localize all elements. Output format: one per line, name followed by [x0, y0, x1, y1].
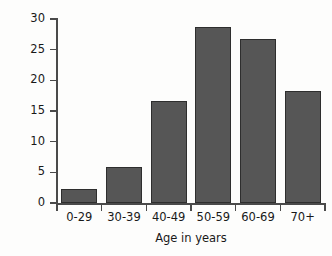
y-axis-tick-mark [50, 18, 57, 19]
y-axis-tick-mark [50, 80, 57, 81]
bar [151, 101, 187, 203]
x-axis-tick-label: 70+ [273, 212, 332, 224]
y-axis-tick-label: 5 [5, 166, 45, 178]
y-axis-tick-label: 0 [5, 197, 45, 209]
y-axis-tick-mark [50, 110, 57, 111]
bar [240, 39, 276, 203]
y-axis-tick-label: 15 [5, 105, 45, 117]
bar-chart: Percent of total 051015202530 0-2930-394… [0, 0, 332, 256]
y-axis-tick-mark [50, 172, 57, 173]
x-axis-tick-mark [235, 204, 236, 211]
x-axis-tick-mark [146, 204, 147, 211]
x-axis-tick-mark [190, 204, 191, 211]
y-axis-tick-label: 30 [5, 13, 45, 25]
y-axis-tick-mark [50, 49, 57, 50]
x-axis-title: Age in years [56, 231, 326, 245]
bar [195, 27, 231, 203]
y-axis-tick-mark [50, 141, 57, 142]
y-axis-tick-label: 10 [5, 136, 45, 148]
x-axis-tick-mark [280, 204, 281, 211]
x-axis-tick-mark [324, 204, 325, 211]
bar [106, 167, 142, 203]
x-axis-tick-mark [56, 204, 57, 211]
bar [61, 189, 97, 203]
plot-area [57, 19, 325, 203]
y-axis-tick-label: 20 [5, 74, 45, 86]
bar [285, 91, 321, 203]
x-axis-tick-mark [101, 204, 102, 211]
y-axis-tick-label: 25 [5, 44, 45, 56]
